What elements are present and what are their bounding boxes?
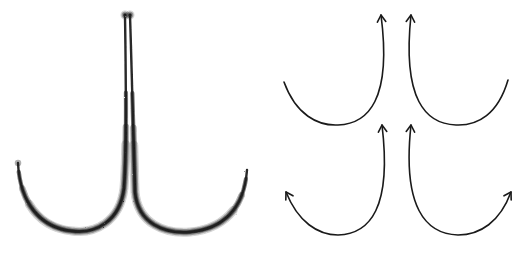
bottom-right-arc-arrow — [406, 125, 511, 235]
right-brush-stroke — [130, 15, 247, 232]
top-right-arc-arrow — [406, 15, 508, 125]
left-brush-stroke — [18, 15, 126, 231]
right-panel-arrow-grid — [284, 15, 511, 235]
diagram-canvas — [0, 0, 522, 253]
bottom-left-arc-arrow — [286, 125, 387, 235]
diagram-svg — [0, 0, 522, 253]
top-left-arc-arrow — [284, 15, 386, 125]
left-panel-brush-figure — [18, 15, 247, 232]
